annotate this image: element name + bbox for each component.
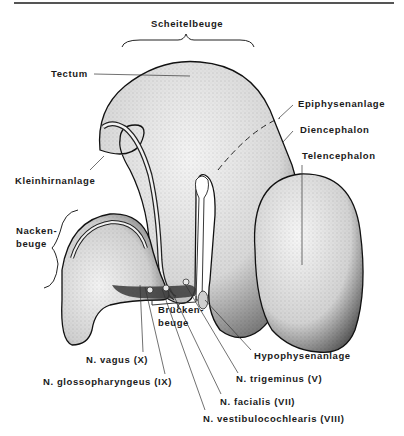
diencephalic-notch: [195, 176, 208, 300]
label-nackenbeuge-line1: Nacken-: [16, 225, 57, 237]
leader-diencephalon: [283, 131, 293, 142]
label-n-vestibulocochlearis: N. vestibulocochlearis (VIII): [203, 413, 344, 425]
label-brueckenbeuge-line1: Brücken-: [158, 304, 204, 316]
label-brueckenbeuge-line2: beuge: [158, 317, 189, 329]
label-nackenbeuge-line2: beuge: [16, 238, 47, 250]
label-epiphysenanlage: Epiphysenanlage: [298, 98, 385, 110]
leader-epiphysenanlage: [279, 105, 293, 118]
label-n-vagus: N. vagus (X): [86, 354, 148, 366]
leader-kleinhirnanlage: [90, 156, 104, 170]
label-hypophysenanlage: Hypophysenanlage: [254, 350, 351, 362]
label-n-facialis: N. facialis (VII): [220, 396, 295, 408]
label-kleinhirnanlage: Kleinhirnanlage: [15, 175, 95, 187]
brain-illustration: [0, 0, 404, 436]
label-n-trigeminus: N. trigeminus (V): [236, 373, 322, 385]
label-telencephalon: Telencephalon: [302, 150, 376, 162]
label-tectum: Tectum: [51, 68, 88, 80]
scheitelbeuge-bracket: [122, 34, 254, 47]
label-diencephalon: Diencephalon: [300, 124, 370, 136]
label-scheitelbeuge: Scheitelbeuge: [151, 18, 223, 30]
label-n-glossopharyngeus: N. glossopharyngeus (IX): [43, 376, 172, 388]
